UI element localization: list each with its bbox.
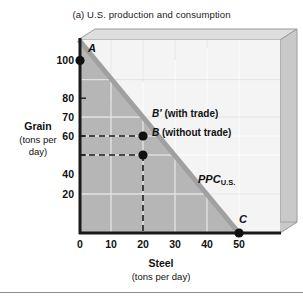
label-ppc-curve: PPCU.S. bbox=[198, 173, 235, 185]
data-point-a bbox=[75, 56, 84, 65]
y-tick-20: 20 bbox=[48, 188, 74, 200]
label-ppc-subscript: U.S. bbox=[221, 178, 236, 187]
x-axis-title: Steel (tons per day) bbox=[88, 257, 234, 283]
label-point-b-note: (without trade) bbox=[159, 127, 231, 138]
x-tick-50: 50 bbox=[229, 238, 249, 250]
x-tick-40: 40 bbox=[197, 238, 217, 250]
label-point-b-prime-symbol: B′ bbox=[152, 108, 162, 119]
label-point-b-prime-note: (with trade) bbox=[162, 108, 219, 119]
y-axis-title-main: Grain bbox=[24, 120, 51, 132]
label-point-b: B (without trade) bbox=[152, 127, 231, 138]
footer-rule bbox=[0, 292, 303, 293]
label-point-b-prime: B′ (with trade) bbox=[152, 108, 218, 119]
box-right-face bbox=[280, 29, 297, 233]
figure-panel: (a) U.S. production and consumption bbox=[0, 0, 303, 303]
box-top-face bbox=[78, 29, 297, 40]
x-axis-title-unit: (tons per day) bbox=[132, 271, 191, 282]
label-ppc-main: PPC bbox=[198, 173, 221, 185]
y-tick-100: 100 bbox=[48, 54, 74, 66]
x-tick-30: 30 bbox=[165, 238, 185, 250]
data-point-c bbox=[234, 228, 243, 237]
y-tick-40: 40 bbox=[48, 168, 74, 180]
y-tick-80: 80 bbox=[48, 92, 74, 104]
data-point-b-prime bbox=[138, 131, 147, 140]
x-tick-0: 0 bbox=[70, 238, 90, 250]
x-tick-10: 10 bbox=[101, 238, 121, 250]
data-point-b bbox=[138, 150, 147, 159]
y-axis-title: Grain (tons per day) bbox=[2, 120, 74, 159]
y-axis-title-unit-2: day) bbox=[29, 146, 47, 157]
x-axis-title-main: Steel bbox=[148, 257, 173, 269]
label-point-c: C bbox=[239, 213, 247, 225]
x-tick-20: 20 bbox=[133, 238, 153, 250]
label-point-a: A bbox=[88, 42, 96, 54]
y-axis-title-unit-1: (tons per bbox=[19, 134, 57, 145]
